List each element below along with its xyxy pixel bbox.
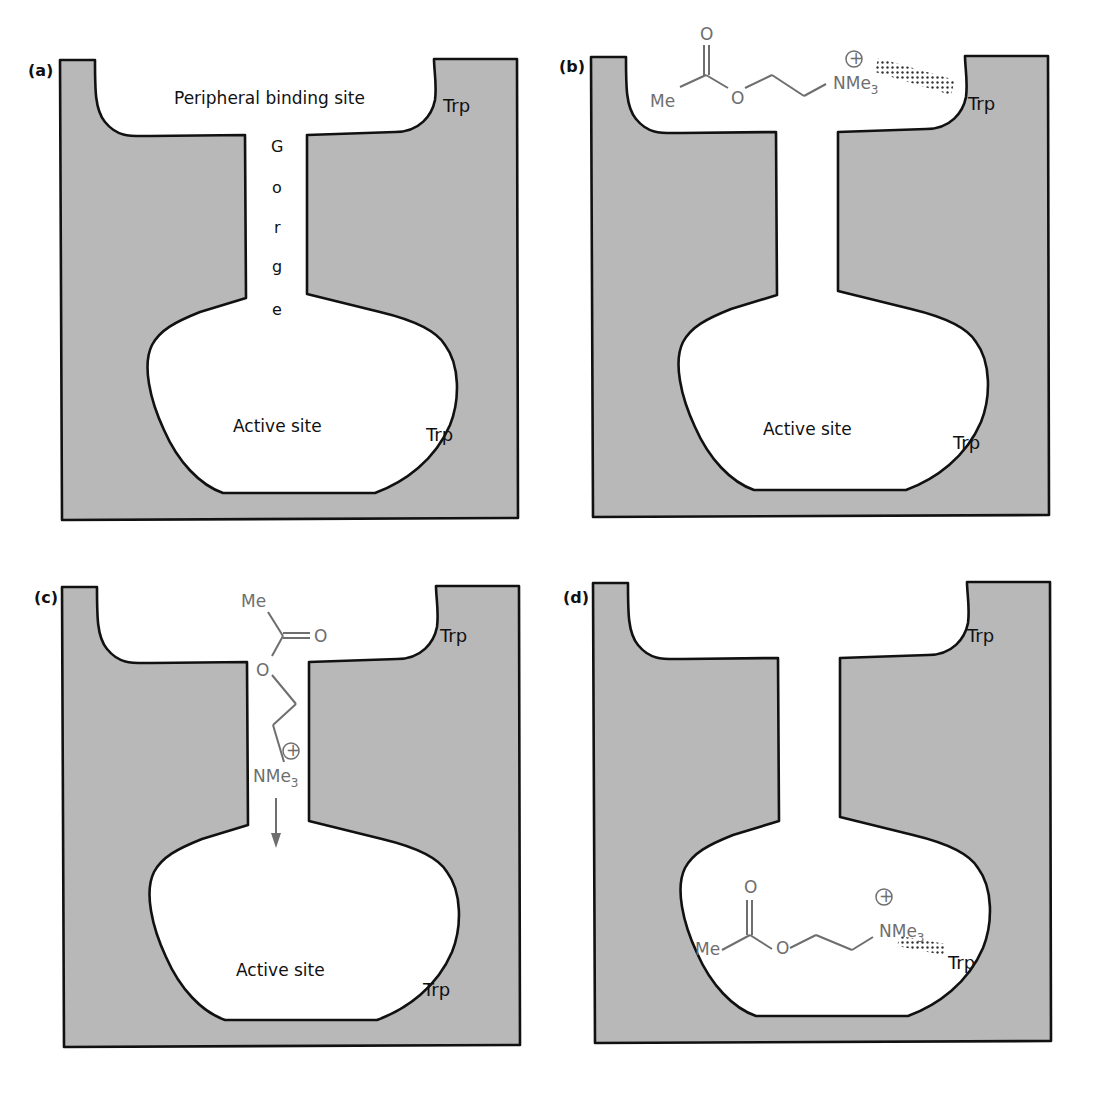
active-site-label: Active site (236, 960, 325, 980)
gorge-letter: e (272, 300, 282, 319)
trp-bottom-label: Trp (947, 952, 975, 973)
protein-shape (593, 582, 1051, 1043)
trp-top-label: Trp (967, 93, 995, 114)
panel-label-d: (d) (563, 588, 589, 607)
acetylcholine-molecule: Me O O NMe3 + (695, 877, 946, 959)
methyl-label: Me (241, 591, 266, 611)
panel-label-b: (b) (559, 57, 585, 76)
methyl-label: Me (695, 939, 720, 959)
carbonyl-oxygen-label: O (700, 24, 713, 44)
cation-pi-interaction-dots (875, 58, 955, 95)
trp-top-label: Trp (442, 95, 470, 116)
acetylcholine-molecule: Me O O NMe3 + (650, 24, 955, 111)
panel-label-c: (c) (34, 588, 58, 607)
peripheral-site-label: Peripheral binding site (174, 88, 365, 108)
protein-shape (591, 56, 1049, 517)
carbonyl-oxygen-label: O (314, 626, 327, 646)
panel-d (593, 582, 1051, 1043)
arrowhead-icon (271, 833, 281, 848)
protein-shape (60, 59, 518, 520)
gorge-label: G o r g e (271, 137, 283, 319)
svg-text:+: + (286, 740, 300, 760)
panel-a (60, 59, 518, 520)
carbonyl-oxygen-label: O (744, 877, 757, 897)
gorge-letter: r (274, 218, 281, 237)
panel-label-a: (a) (28, 61, 53, 80)
methyl-label: Me (650, 91, 675, 111)
ester-oxygen-label: O (776, 938, 789, 958)
gorge-letter: G (271, 137, 283, 156)
trp-bottom-label: Trp (425, 424, 453, 445)
gorge-letter: o (272, 178, 282, 197)
panel-b (591, 56, 1049, 517)
ester-oxygen-label: O (256, 660, 269, 680)
svg-text:+: + (879, 886, 893, 906)
svg-text:+: + (849, 48, 863, 68)
ester-oxygen-label: O (731, 88, 744, 108)
trp-bottom-label: Trp (422, 979, 450, 1000)
trp-top-label: Trp (439, 625, 467, 646)
amine-label: NMe3 (253, 766, 298, 790)
trp-bottom-label: Trp (952, 432, 980, 453)
amine-label: NMe3 (833, 73, 878, 97)
active-site-label: Active site (763, 419, 852, 439)
gorge-letter: g (272, 257, 282, 276)
acetylcholinesterase-figure: (a) Peripheral binding site Trp G o r g … (0, 0, 1103, 1093)
active-site-label: Active site (233, 416, 322, 436)
trp-top-label: Trp (966, 625, 994, 646)
